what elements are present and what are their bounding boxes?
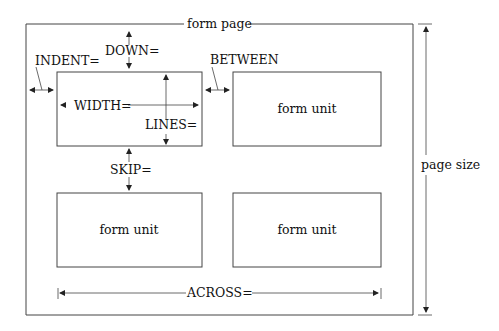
- indent-dimension-arrow: [30, 67, 53, 90]
- form-layout-diagram: form page form unit form unit form unit …: [0, 0, 499, 331]
- lines-label: LINES=: [145, 117, 197, 132]
- form-unit-label-bottom-right: form unit: [277, 222, 336, 237]
- skip-label: SKIP=: [110, 162, 152, 177]
- across-label: ACROSS=: [186, 285, 253, 300]
- indent-label: INDENT=: [35, 53, 100, 68]
- width-label: WIDTH=: [74, 98, 132, 113]
- page-size-label: page size: [421, 157, 480, 172]
- form-unit-label-bottom-left: form unit: [99, 222, 158, 237]
- form-page-title: form page: [187, 16, 252, 31]
- form-unit-label-top-right: form unit: [277, 101, 336, 116]
- between-label: BETWEEN: [210, 52, 279, 67]
- between-dimension-arrow: [206, 67, 229, 90]
- down-label: DOWN=: [105, 43, 160, 58]
